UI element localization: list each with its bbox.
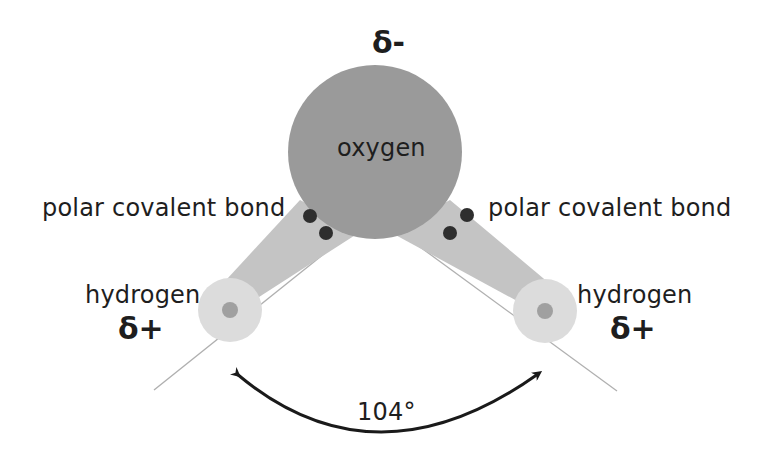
bond-angle-label: 104° (357, 400, 416, 424)
oxygen-label: oxygen (337, 136, 426, 160)
left-bond-label: polar covalent bond (42, 196, 285, 220)
right-bond-label: polar covalent bond (488, 196, 731, 220)
hydrogen-left-charge-label: δ+ (118, 314, 164, 344)
right-bond-electron-1 (460, 208, 474, 222)
oxygen-charge-label: δ- (372, 28, 405, 58)
hydrogen-right-label: hydrogen (577, 283, 692, 307)
hydrogen-right-charge-label: δ+ (610, 314, 656, 344)
hydrogen-left-label: hydrogen (85, 283, 200, 307)
left-bond-electron-2 (319, 226, 333, 240)
hydrogen-nucleus-right (537, 303, 553, 319)
hydrogen-nucleus-left (222, 302, 238, 318)
right-bond-electron-2 (443, 226, 457, 240)
water-molecule-diagram (0, 0, 770, 459)
left-bond-electron-1 (303, 209, 317, 223)
